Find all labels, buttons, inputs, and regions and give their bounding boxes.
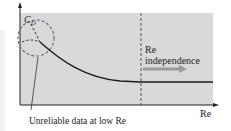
x-axis-arrowhead-icon — [213, 103, 219, 107]
x-axis-label: Re — [200, 108, 212, 119]
region-label-line1: Re — [145, 44, 157, 55]
region-label-line2: independence — [145, 55, 201, 66]
drag-coefficient-diagram: CD Re independence Re Unreliable data at… — [0, 0, 231, 131]
annotation-text: Unreliable data at low Re — [29, 116, 126, 126]
y-axis-arrowhead-icon — [18, 2, 22, 8]
